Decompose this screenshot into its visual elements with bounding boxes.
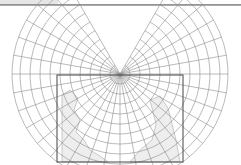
projection-diagram <box>0 0 241 165</box>
